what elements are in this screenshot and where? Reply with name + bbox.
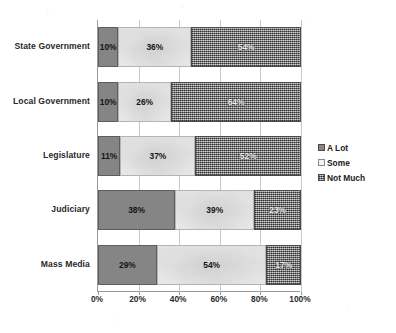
bar-segment-alot: 10% <box>98 27 118 67</box>
legend-label: Some <box>327 158 350 168</box>
bar-row: 11%37%52% <box>98 136 301 176</box>
x-axis-tick-label: 0% <box>91 294 103 304</box>
bar-segment-notmuch: 17% <box>266 245 301 285</box>
x-axis-tick-label: 80% <box>251 294 268 304</box>
stacked-bar-chart: State GovernmentLocal GovernmentLegislat… <box>0 0 396 333</box>
legend-item-notmuch[interactable]: Not Much <box>318 172 394 183</box>
legend-swatch-alot <box>318 144 325 151</box>
x-axis-tick-labels: 0%20%40%60%80%100% <box>97 294 300 310</box>
bar-segment-alot: 29% <box>98 245 157 285</box>
bar-segment-value-label: 52% <box>240 151 257 161</box>
bar-segment-value-label: 23% <box>269 205 286 215</box>
bar-row: 38%39%23% <box>98 190 301 230</box>
chart-legend: A LotSomeNot Much <box>318 142 394 187</box>
category-label-local-government: Local Government <box>0 96 90 106</box>
legend-swatch-notmuch <box>318 174 325 181</box>
category-label-mass-media: Mass Media <box>0 259 90 269</box>
bar-segment-some: 39% <box>175 190 254 230</box>
bar-segment-value-label: 39% <box>206 205 223 215</box>
bar-segment-value-label: 37% <box>150 151 167 161</box>
x-axis-tick-label: 100% <box>289 294 310 304</box>
bar-segment-some: 26% <box>118 82 171 122</box>
legend-item-some[interactable]: Some <box>318 157 394 168</box>
bar-segment-some: 36% <box>118 27 191 67</box>
bar-row: 29%54%17% <box>98 245 301 285</box>
category-label-state-government: State Government <box>0 41 90 51</box>
category-axis-labels: State GovernmentLocal GovernmentLegislat… <box>0 20 94 292</box>
bar-segment-value-label: 36% <box>146 42 163 52</box>
bar-segment-value-label: 29% <box>119 260 136 270</box>
bar-segment-value-label: 64% <box>228 97 245 107</box>
bar-segment-value-label: 10% <box>100 97 117 107</box>
bar-segment-notmuch: 64% <box>171 82 301 122</box>
bar-row: 10%26%64% <box>98 82 301 122</box>
bar-row: 10%36%54% <box>98 27 301 67</box>
legend-swatch-some <box>318 159 325 166</box>
bar-segment-value-label: 17% <box>275 260 292 270</box>
x-axis-tick-label: 40% <box>170 294 187 304</box>
bar-segment-notmuch: 52% <box>195 136 301 176</box>
category-label-judiciary: Judiciary <box>0 204 90 214</box>
bar-segment-notmuch: 54% <box>191 27 301 67</box>
bar-segment-alot: 11% <box>98 136 120 176</box>
bar-segment-alot: 10% <box>98 82 118 122</box>
x-axis-tick-label: 20% <box>129 294 146 304</box>
legend-label: Not Much <box>327 173 365 183</box>
bar-segment-value-label: 54% <box>203 260 220 270</box>
bar-segment-value-label: 26% <box>136 97 153 107</box>
bar-segment-some: 54% <box>157 245 267 285</box>
x-axis-tick-label: 60% <box>210 294 227 304</box>
bar-segment-value-label: 10% <box>100 42 117 52</box>
bar-segment-value-label: 11% <box>101 151 117 161</box>
category-label-legislature: Legislature <box>0 150 90 160</box>
legend-label: A Lot <box>327 143 348 153</box>
bar-segment-some: 37% <box>120 136 195 176</box>
bar-segment-alot: 38% <box>98 190 175 230</box>
plot-area: 10%36%54%10%26%64%11%37%52%38%39%23%29%5… <box>97 20 300 292</box>
gridline <box>301 20 302 292</box>
x-axis-line <box>97 291 300 292</box>
legend-item-alot[interactable]: A Lot <box>318 142 394 153</box>
bar-segment-notmuch: 23% <box>254 190 301 230</box>
bar-segment-value-label: 54% <box>238 42 255 52</box>
bar-segment-value-label: 38% <box>128 205 145 215</box>
